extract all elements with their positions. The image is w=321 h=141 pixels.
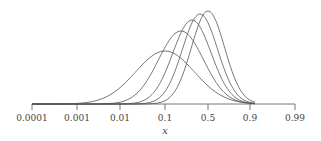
x-tick-label: 0.99 xyxy=(285,113,305,123)
density-chart: 0.00010.0010.010.10.50.90.99 x xyxy=(0,0,321,141)
x-tick-label: 0.1 xyxy=(158,113,172,123)
x-tick-label: 0.01 xyxy=(110,113,130,123)
density-curve xyxy=(32,14,255,104)
x-axis-title: x xyxy=(162,125,168,136)
x-tick-label: 0.001 xyxy=(64,113,90,123)
density-curves xyxy=(32,11,255,104)
density-curve xyxy=(32,31,255,104)
x-tick-label: 0.5 xyxy=(201,113,216,123)
x-axis-ticks: 0.00010.0010.010.10.50.90.99 xyxy=(16,104,305,123)
x-tick-label: 0.9 xyxy=(243,113,258,123)
x-tick-label: 0.0001 xyxy=(16,113,48,123)
